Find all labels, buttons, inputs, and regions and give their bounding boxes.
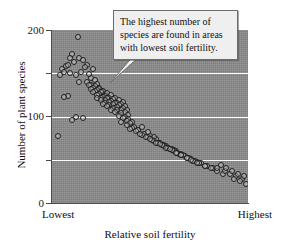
x-axis-label-highest: Highest: [212, 208, 272, 220]
data-point: [65, 62, 71, 68]
data-point: [202, 163, 208, 169]
x-axis-label-lowest: Lowest: [42, 208, 74, 220]
y-axis-line: [51, 30, 52, 204]
y-tick-150: [46, 73, 51, 74]
data-point: [90, 66, 96, 72]
data-point: [157, 141, 163, 147]
data-point: [61, 94, 67, 100]
callout-annotation: The highest number of species are found …: [113, 10, 238, 60]
y-tick-100: [46, 116, 51, 117]
data-point: [67, 55, 73, 61]
x-axis-title: Relative soil fertility: [52, 228, 248, 240]
y-tick-0: [46, 203, 51, 204]
data-point: [67, 70, 73, 76]
y-axis-title: Number of plant species: [15, 25, 27, 205]
data-point: [139, 124, 145, 130]
y-tick-50: [46, 160, 51, 161]
gridline: [52, 160, 248, 161]
scatter-plot-figure: 200 100 0 Number of plant species Relati…: [0, 0, 283, 247]
data-point: [55, 133, 61, 139]
data-point: [243, 181, 248, 187]
data-point: [80, 115, 86, 121]
data-point: [73, 114, 79, 120]
x-axis-line: [51, 203, 249, 204]
data-point: [82, 64, 88, 70]
y-tick-200: [46, 30, 51, 31]
data-point: [147, 136, 153, 142]
data-point: [76, 79, 82, 85]
data-point: [57, 72, 63, 78]
data-point: [118, 119, 124, 125]
data-point: [75, 34, 81, 40]
